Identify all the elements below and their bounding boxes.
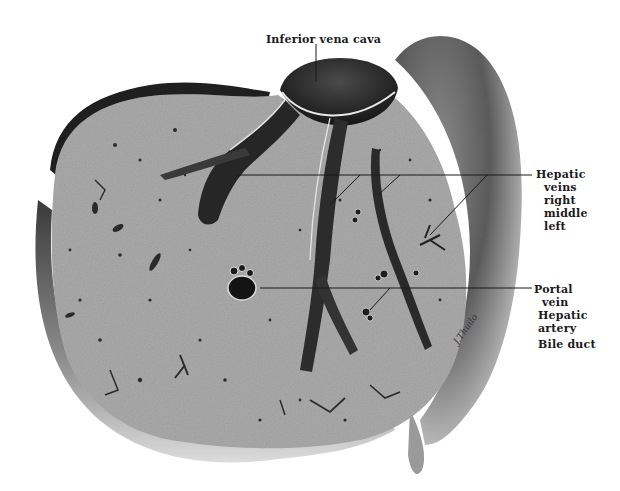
label-hepatic-veins: Hepatic veins right middle left <box>536 168 588 233</box>
label-left: left <box>536 220 588 233</box>
label-bile-duct: Bile duct <box>534 338 596 351</box>
label-hepatic-artery-2: artery <box>534 322 596 335</box>
label-inferior-vena-cava: Inferior vena cava <box>266 33 381 46</box>
label-portal: Portal <box>534 283 573 296</box>
label-vein: vein <box>534 296 596 309</box>
portal-triad <box>228 265 256 301</box>
label-portal-group: Portal vein Hepatic artery Bile duct <box>534 283 596 351</box>
liver-illustration: J.Thuilo <box>0 0 620 491</box>
label-middle: middle <box>536 207 588 220</box>
label-right: right <box>536 194 588 207</box>
label-hepatic: Hepatic <box>536 168 586 181</box>
label-veins: veins <box>536 181 588 194</box>
label-hepatic-artery-1: Hepatic <box>534 309 596 322</box>
